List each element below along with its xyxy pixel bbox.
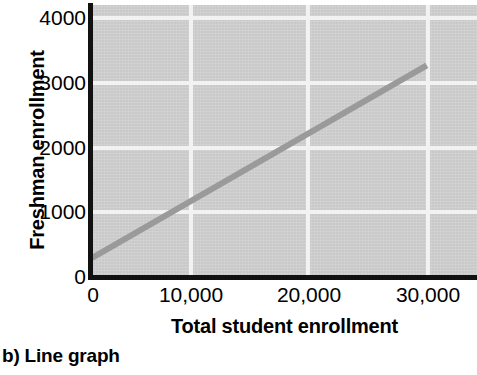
y-tick-label-4000: 4000 — [28, 7, 86, 28]
x-tick-label-10000: 10,000 — [159, 284, 223, 305]
data-line — [92, 65, 427, 258]
x-axis-title: Total student enrollment — [92, 315, 477, 338]
line-graph-figure: Freshman enrollment 4000 3000 2000 1000 … — [0, 0, 477, 375]
figure-caption: b) Line graph — [2, 345, 120, 367]
series-line-freshman-enrollment — [92, 5, 477, 277]
plot-area — [92, 5, 477, 277]
x-axis-tick-labels: 0 10,000 20,000 30,000 — [0, 284, 477, 312]
y-axis-tick-labels: 4000 3000 2000 1000 0 — [28, 0, 86, 375]
x-tick-label-30000: 30,000 — [396, 284, 460, 305]
y-tick-label-3000: 3000 — [28, 72, 86, 93]
y-tick-label-1000: 1000 — [28, 201, 86, 222]
y-tick-label-2000: 2000 — [28, 137, 86, 158]
y-axis-spine — [88, 3, 93, 280]
x-axis-spine — [88, 275, 477, 280]
x-tick-label-0: 0 — [87, 284, 99, 305]
x-tick-label-20000: 20,000 — [277, 284, 341, 305]
